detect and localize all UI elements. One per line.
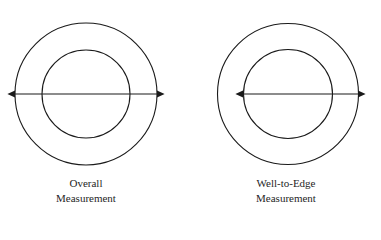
- well-to-edge-caption-line-2: Measurement: [226, 191, 346, 206]
- panel-well-to-edge: [218, 24, 359, 165]
- overall-caption-line-1: Overall: [26, 176, 146, 191]
- panel-overall: [15, 23, 157, 165]
- overall-caption-line-2: Measurement: [26, 191, 146, 206]
- well-to-edge-caption: Well-to-Edge Measurement: [226, 176, 346, 206]
- overall-caption: Overall Measurement: [26, 176, 146, 206]
- well-to-edge-caption-line-1: Well-to-Edge: [226, 176, 346, 191]
